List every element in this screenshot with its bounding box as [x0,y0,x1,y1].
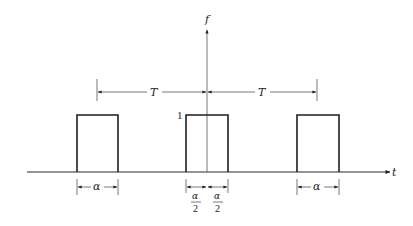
width-label-left: α [93,180,101,193]
amplitude-label: 1 [177,109,183,121]
pulse-left [77,115,118,172]
period-label-right: T [258,86,267,99]
f-axis-label: f [204,13,211,26]
width-label-right: α [313,180,321,193]
half-width-numerator-left: α [192,191,198,201]
pulse-train-diagram: t f 1 T T α α α 2 α 2 [0,0,413,226]
pulse-right [297,115,339,172]
period-label-left: T [150,86,159,99]
t-axis-label: t [392,166,397,179]
half-width-denominator-right: 2 [215,203,220,214]
half-width-numerator-right: α [214,191,220,201]
half-width-denominator-left: 2 [193,203,198,214]
